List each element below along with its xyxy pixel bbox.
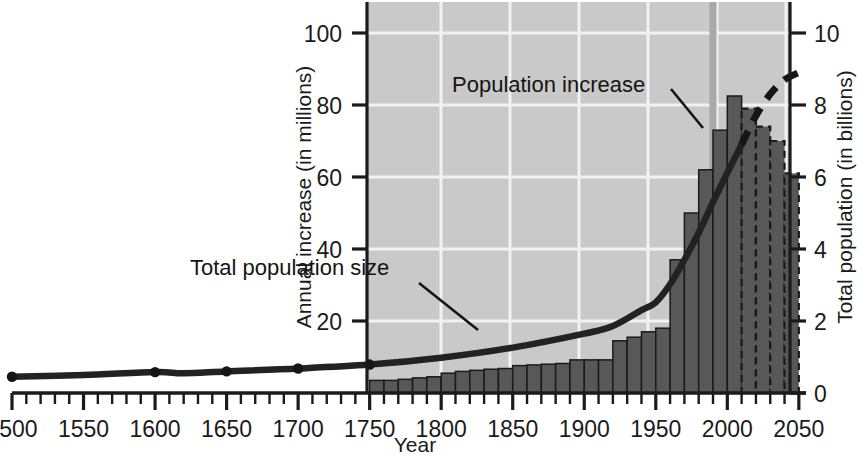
left-tick-label-80: 80 <box>316 93 342 119</box>
right-tick-label-2: 2 <box>814 309 827 335</box>
left-tick-label-60: 60 <box>316 165 342 191</box>
x-axis-major-ticks <box>12 393 799 410</box>
data-point-1700 <box>293 363 303 373</box>
right-tick-label-10: 10 <box>814 21 840 47</box>
bar-1800 <box>441 373 455 393</box>
data-point-1650 <box>221 366 231 376</box>
bar-1950 <box>656 328 670 393</box>
bar-2020 <box>756 127 770 393</box>
x-tick-label-2000: 2000 <box>702 416 753 442</box>
right-tick-label-8: 8 <box>814 93 827 119</box>
x-axis-title: Year <box>394 433 436 456</box>
chart-canvas: 100 80 60 40 20 10 8 6 4 2 0 15001550160… <box>0 0 863 457</box>
bar-1790 <box>427 377 441 393</box>
x-tick-label-1900: 1900 <box>559 416 610 442</box>
x-tick-label-1850: 1850 <box>487 416 538 442</box>
bar-1830 <box>484 369 498 393</box>
bar-1820 <box>470 370 484 393</box>
x-tick-label-1600: 1600 <box>129 416 180 442</box>
bar-1940 <box>641 332 655 393</box>
left-axis <box>352 2 367 393</box>
bar-1890 <box>570 360 584 393</box>
bar-2000 <box>727 96 741 393</box>
bar-1850 <box>513 366 527 393</box>
data-point-1600 <box>150 367 160 377</box>
right-tick-label-0: 0 <box>814 381 827 407</box>
bar-1990 <box>713 130 727 393</box>
annotation-total-population-size: Total population size <box>190 255 389 280</box>
x-tick-label-1550: 1550 <box>58 416 109 442</box>
x-tick-label-1650: 1650 <box>201 416 252 442</box>
bar-1870 <box>541 364 555 393</box>
bar-2010 <box>742 109 756 393</box>
x-tick-label-1500: 1500 <box>0 416 38 442</box>
data-point-1500 <box>7 372 17 382</box>
bar-2030 <box>770 141 784 393</box>
bar-1930 <box>627 337 641 393</box>
bar-1880 <box>556 363 570 393</box>
bar-1860 <box>527 365 541 393</box>
left-axis-title: Annual increase (in millions) <box>292 66 315 329</box>
bar-1910 <box>599 360 613 393</box>
bar-1770 <box>398 379 412 393</box>
bar-1750 <box>370 380 384 393</box>
annotation-population-increase: Population increase <box>452 72 645 97</box>
right-tick-label-4: 4 <box>814 237 827 263</box>
bar-2040 <box>785 173 799 393</box>
x-tick-label-2050: 2050 <box>773 416 824 442</box>
bar-1780 <box>413 378 427 393</box>
bar-1810 <box>455 371 469 393</box>
left-tick-label-20: 20 <box>316 309 342 335</box>
bar-1760 <box>384 380 398 393</box>
bar-1900 <box>584 360 598 393</box>
left-tick-label-100: 100 <box>304 21 342 47</box>
bar-1840 <box>498 369 512 393</box>
right-tick-label-6: 6 <box>814 165 827 191</box>
right-axis-title: Total population (in billions) <box>833 70 856 323</box>
x-tick-label-1750: 1750 <box>344 416 395 442</box>
bar-1920 <box>613 341 627 393</box>
population-growth-chart-figure: 100 80 60 40 20 10 8 6 4 2 0 15001550160… <box>0 0 863 457</box>
x-tick-label-1700: 1700 <box>273 416 324 442</box>
x-tick-label-1950: 1950 <box>630 416 681 442</box>
